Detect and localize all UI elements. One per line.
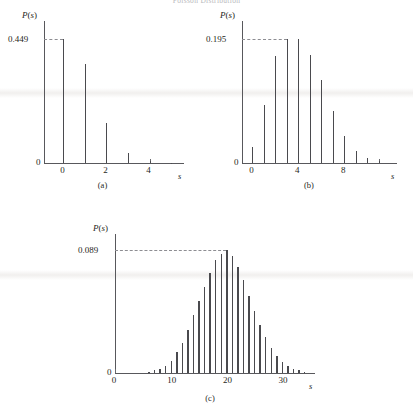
x-axis <box>44 163 184 164</box>
y-max-label: 0.449 <box>8 34 28 44</box>
figure-page: Poisson Distribution 0240.4490P(s)s(a) 0… <box>0 0 413 413</box>
x-tick-label: 30 <box>278 375 287 385</box>
stem-bar <box>293 369 294 373</box>
x-axis <box>115 373 315 374</box>
stem-bar <box>106 123 107 163</box>
chart-panel-b: 0480.1950P(s)s(b) <box>205 0 413 200</box>
stem-bar <box>221 254 222 373</box>
y-axis-title: P(s) <box>220 10 235 20</box>
stem-bar <box>215 260 216 373</box>
stem-bar <box>128 153 129 163</box>
stem-bar <box>275 56 276 163</box>
x-tick-label: 2 <box>103 165 108 175</box>
max-guide-line <box>44 39 63 40</box>
stem-bar <box>356 151 357 163</box>
stem-bar <box>85 64 86 163</box>
stem-bar <box>287 366 288 373</box>
stem-bar <box>63 39 64 163</box>
chart-panel-c: 01020300.0890P(s)s(c) <box>70 205 350 413</box>
stem-bar <box>154 370 155 373</box>
x-axis-title: s <box>309 381 312 391</box>
x-tick-label: 8 <box>341 165 346 175</box>
stem-bar <box>344 136 345 163</box>
y-axis <box>242 21 243 163</box>
y-axis <box>115 234 116 373</box>
chart-panel-a: 0240.4490P(s)s(a) <box>0 0 205 200</box>
stem-bar <box>198 301 199 373</box>
panel-caption: (a) <box>0 180 205 190</box>
stem-bar <box>276 356 277 373</box>
stem-bar <box>304 372 305 373</box>
x-tick-label: 10 <box>167 375 176 385</box>
stem-bar <box>171 163 172 164</box>
stem-bar <box>209 273 210 373</box>
stem-bar <box>254 311 255 373</box>
stem-bar <box>265 337 266 373</box>
stem-bar <box>193 315 194 373</box>
stem-bar <box>176 352 177 373</box>
y-axis-title: P(s) <box>93 223 108 233</box>
stem-bar <box>187 330 188 373</box>
max-guide-line <box>242 39 287 40</box>
stem-bar <box>237 267 238 373</box>
x-tick-label: 4 <box>146 165 151 175</box>
x-tick-label: 0 <box>112 375 117 385</box>
x-axis <box>242 163 397 164</box>
stem-bar <box>243 280 244 373</box>
stem-bar <box>310 55 311 163</box>
x-tick-label: 0 <box>249 165 254 175</box>
x-tick <box>115 369 116 373</box>
panel-caption: (c) <box>70 393 350 403</box>
max-guide-line <box>115 250 226 251</box>
stem-bar <box>282 362 283 373</box>
stem-bar <box>259 325 260 373</box>
stem-bar <box>367 158 368 163</box>
stem-bar <box>232 256 233 373</box>
stem-bar <box>165 366 166 373</box>
stem-bar <box>264 105 265 163</box>
x-tick-label: 20 <box>223 375 232 385</box>
y-zero-label: 0 <box>234 157 239 167</box>
stem-bar <box>287 39 288 163</box>
y-max-label: 0.089 <box>78 245 98 255</box>
panel-caption: (b) <box>205 180 413 190</box>
stem-bar <box>148 372 149 373</box>
stem-bar <box>204 287 205 373</box>
y-zero-label: 0 <box>36 157 41 167</box>
stem-bar <box>150 161 151 163</box>
stem-bar <box>298 39 299 163</box>
stem-bar <box>271 348 272 373</box>
x-tick-label: 0 <box>60 165 65 175</box>
stem-bar <box>298 370 299 373</box>
stem-bar <box>248 296 249 373</box>
x-tick-label: 4 <box>295 165 300 175</box>
stem-bar <box>379 161 380 163</box>
y-max-label: 0.195 <box>206 34 226 44</box>
stem-bar <box>171 361 172 373</box>
stem-bar <box>159 369 160 373</box>
y-axis-title: P(s) <box>22 10 37 20</box>
stem-bar <box>182 343 183 373</box>
y-axis <box>44 21 45 163</box>
stem-bar <box>333 111 334 163</box>
stem-bar <box>226 250 227 373</box>
stem-bar <box>252 147 253 163</box>
stem-bar <box>321 80 322 163</box>
y-zero-label: 0 <box>107 367 112 377</box>
